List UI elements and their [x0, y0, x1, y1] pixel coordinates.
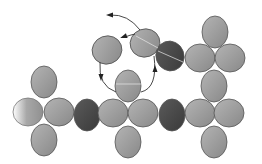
subunit-diagram [0, 0, 262, 164]
subunit-center-bottom [115, 126, 141, 158]
arrow-right-up-icon [141, 56, 155, 92]
arrowhead-icon [119, 33, 127, 40]
subunit-center-left [98, 99, 128, 127]
arrow-top-out-icon [110, 15, 140, 30]
subunit-right-upper-left [185, 44, 215, 72]
subunit-center-right [128, 99, 158, 127]
subunit-right-lower-right [214, 99, 244, 127]
subunit-right-top [202, 16, 228, 48]
subunit-right-upper-right [215, 44, 245, 72]
subunit-dark-left [74, 99, 100, 131]
subunit-float-left [88, 32, 126, 69]
subunit-right-mid [201, 70, 227, 102]
subunit-left-left [13, 98, 43, 126]
subunit-dark-right [159, 99, 185, 131]
subunit-right-lower-left [185, 99, 215, 127]
subunit-ellipses [13, 16, 245, 158]
subunit-left-bottom [31, 124, 57, 156]
subunit-center-top [115, 70, 141, 102]
subunit-left-top [31, 66, 57, 98]
arrowhead-icon [153, 65, 158, 72]
subunit-right-bottom [201, 126, 227, 158]
subunit-left-right [44, 98, 74, 126]
arrowhead-icon [106, 13, 113, 18]
